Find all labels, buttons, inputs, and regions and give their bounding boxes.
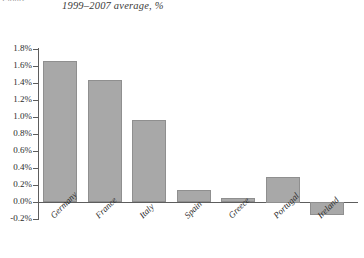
y-axis-tick-label: 1.8% [13,44,32,53]
y-axis-tick [33,83,38,84]
y-axis-tick-label: 1.2% [13,95,32,104]
bar-germany [43,61,77,202]
y-axis-tick [33,151,38,152]
y-axis-tick-label: 0.2% [13,180,32,189]
y-axis-tick [33,219,38,220]
y-axis-tick-label: 1.0% [13,112,32,121]
y-axis-tick-label: 0.6% [13,146,32,155]
y-axis-tick [33,66,38,67]
y-axis-tick-label: 0.0% [13,197,32,206]
y-axis-tick-label: 0.8% [13,129,32,138]
bar-france [88,80,122,202]
y-axis-tick-label: -0.2% [10,214,32,223]
y-axis-tick [33,168,38,169]
y-axis-tick [33,185,38,186]
bar-italy [132,120,166,202]
y-axis-tick-label: 1.4% [13,78,32,87]
y-axis-tick [33,202,38,203]
chart-screenshot: Figure 1999–2007 average, % 1.8%1.6%1.4%… [0,0,364,258]
y-axis-tick [33,100,38,101]
y-axis-tick [33,117,38,118]
x-axis-label-italy: Italy [138,202,156,220]
y-axis-tick-label: 0.4% [13,163,32,172]
y-axis-line [38,48,39,220]
y-axis-tick [33,49,38,50]
y-axis-tick-label: 1.6% [13,61,32,70]
y-axis-tick [33,134,38,135]
plot-area: 1.8%1.6%1.4%1.2%1.0%0.8%0.6%0.4%0.2%0.0%… [0,0,364,258]
